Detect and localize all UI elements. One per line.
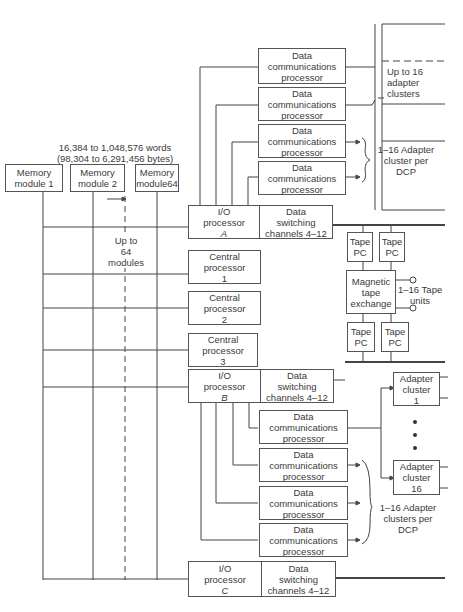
label-line: DCP — [370, 166, 442, 177]
label-line: 1–16 Adapter — [372, 502, 444, 513]
dcp-label: communications — [269, 460, 338, 471]
switch-label: switching — [277, 381, 316, 392]
tape-pc-label: Tape — [382, 236, 403, 247]
dcp-label: communications — [268, 173, 337, 184]
ellipsis-dot — [413, 420, 417, 424]
tape-pc-bottom-2: Tape PC — [381, 322, 409, 352]
tape-pc-top-2: Tape PC — [379, 232, 405, 262]
dcp-label: Data — [293, 487, 313, 498]
dcp-label: communications — [268, 61, 337, 72]
dcp-label: communications — [269, 422, 338, 433]
memory-module-label: Memory — [80, 167, 114, 178]
dcp-label: Data — [292, 162, 312, 173]
dcp-a-3: Data communications processor — [258, 124, 346, 158]
label-line: clusters — [387, 88, 447, 99]
dcp-label: Data — [292, 50, 312, 61]
adapter-cluster-per-dcp-a-label: 1–16 Adapter cluster per DCP — [370, 144, 442, 177]
magnetic-tape-exchange: Magnetic tape exchange — [346, 270, 396, 314]
io-id: A — [221, 228, 227, 239]
label-line: 1–16 Adapter — [370, 144, 442, 155]
memory-module-2: Memory module 2 — [70, 164, 125, 192]
dcp-label: processor — [281, 184, 323, 195]
tape-units-label: 1–16 Tape units — [398, 284, 458, 306]
dcp-label: communications — [269, 535, 338, 546]
data-switching-channels-b: Data switching channels 4–12 — [260, 369, 334, 403]
memory-capacity-label: 16,384 to 1,048,576 words (98,304 to 6,2… — [40, 142, 190, 164]
tape-pc-label: PC — [353, 247, 366, 258]
dcp-label: communications — [268, 136, 337, 147]
io-label: I/O — [219, 563, 232, 574]
capacity-bytes: (98,304 to 6,291,456 bytes) — [40, 153, 190, 164]
dcp-label: Data — [293, 524, 313, 535]
memory-module-label: Memory — [140, 167, 174, 178]
cp-label: Central — [209, 292, 240, 303]
memory-module-id: module 1 — [14, 178, 53, 189]
dcp-b-2: Data communications processor — [259, 448, 348, 482]
io-label: I/O — [218, 370, 231, 381]
tape-pc-label: PC — [354, 337, 367, 348]
io-processor-a: I/O processor A — [188, 205, 260, 239]
label-line: Up to — [105, 235, 147, 246]
central-processor-2: Central processor 2 — [188, 291, 261, 325]
dcp-label: processor — [281, 110, 323, 121]
dcp-b-4: Data communications processor — [259, 523, 348, 557]
label-line: DCP — [372, 524, 444, 535]
label-line: cluster per — [370, 155, 442, 166]
dcp-a-2: Data communications processor — [258, 87, 346, 121]
switch-label: Data — [287, 370, 307, 381]
cp-number: 3 — [220, 356, 225, 367]
adapter-clusters-per-dcp-b-label: 1–16 Adapter clusters per DCP — [372, 502, 444, 535]
cp-number: 1 — [222, 273, 227, 284]
adapter-label: Adapter — [400, 461, 433, 472]
switch-label: channels 4–12 — [265, 228, 327, 239]
dcp-label: processor — [283, 546, 325, 557]
switch-label: switching — [279, 574, 318, 585]
dcp-b-1: Data communications processor — [259, 410, 348, 444]
dcp-label: Data — [292, 125, 312, 136]
switch-label: Data — [288, 563, 308, 574]
label-line: Up to 16 — [387, 66, 447, 77]
adapter-label: cluster — [403, 472, 431, 483]
io-label: I/O — [218, 206, 231, 217]
ellipsis-dot — [413, 446, 417, 450]
dcp-label: Data — [293, 449, 313, 460]
capacity-words: 16,384 to 1,048,576 words — [40, 142, 190, 153]
tape-pc-label: Tape — [385, 326, 406, 337]
up-to-64-modules-label: Up to 64 modules — [105, 235, 147, 268]
adapter-number: 1 — [414, 395, 419, 406]
switch-label: switching — [276, 217, 315, 228]
ellipsis-dot — [413, 433, 417, 437]
label-line: modules — [105, 257, 147, 268]
tape-pc-label: PC — [385, 247, 398, 258]
io-label: processor — [203, 217, 245, 228]
memory-module-64: Memory module64 — [135, 164, 179, 192]
cp-label: Central — [208, 334, 239, 345]
exchange-label: Magnetic — [352, 276, 391, 287]
dcp-a-1: Data communications processor — [258, 48, 346, 84]
cp-label: processor — [202, 345, 244, 356]
cp-label: Central — [209, 251, 240, 262]
cp-label: processor — [204, 262, 246, 273]
exchange-label: tape — [362, 287, 381, 298]
dcp-label: Data — [293, 411, 313, 422]
up-to-16-adapter-clusters-label: Up to 16 adapter clusters — [387, 66, 447, 99]
adapter-cluster-1: Adapter cluster 1 — [393, 372, 440, 406]
tape-pc-bottom-1: Tape PC — [347, 322, 375, 352]
label-line: clusters per — [372, 513, 444, 524]
dcp-label: processor — [281, 147, 323, 158]
tape-pc-label: Tape — [350, 236, 371, 247]
switch-label: channels 4–12 — [266, 392, 328, 403]
tape-pc-label: PC — [388, 337, 401, 348]
memory-module-label: Memory — [17, 167, 51, 178]
dcp-label: processor — [281, 72, 323, 83]
switch-label: channels 4–12 — [268, 585, 330, 596]
tape-pc-label: Tape — [351, 326, 372, 337]
switch-label: Data — [286, 206, 306, 217]
memory-module-id: module64 — [136, 178, 178, 189]
adapter-label: Adapter — [400, 373, 433, 384]
data-switching-channels-a: Data switching channels 4–12 — [259, 205, 333, 239]
exchange-label: exchange — [350, 298, 391, 309]
label-line: 64 — [105, 246, 147, 257]
dcp-label: communications — [269, 498, 338, 509]
dcp-label: processor — [283, 509, 325, 520]
